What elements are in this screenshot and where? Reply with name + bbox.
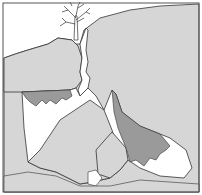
geology-cross-section-figure — [0, 0, 202, 195]
cross-section-svg — [0, 0, 202, 195]
